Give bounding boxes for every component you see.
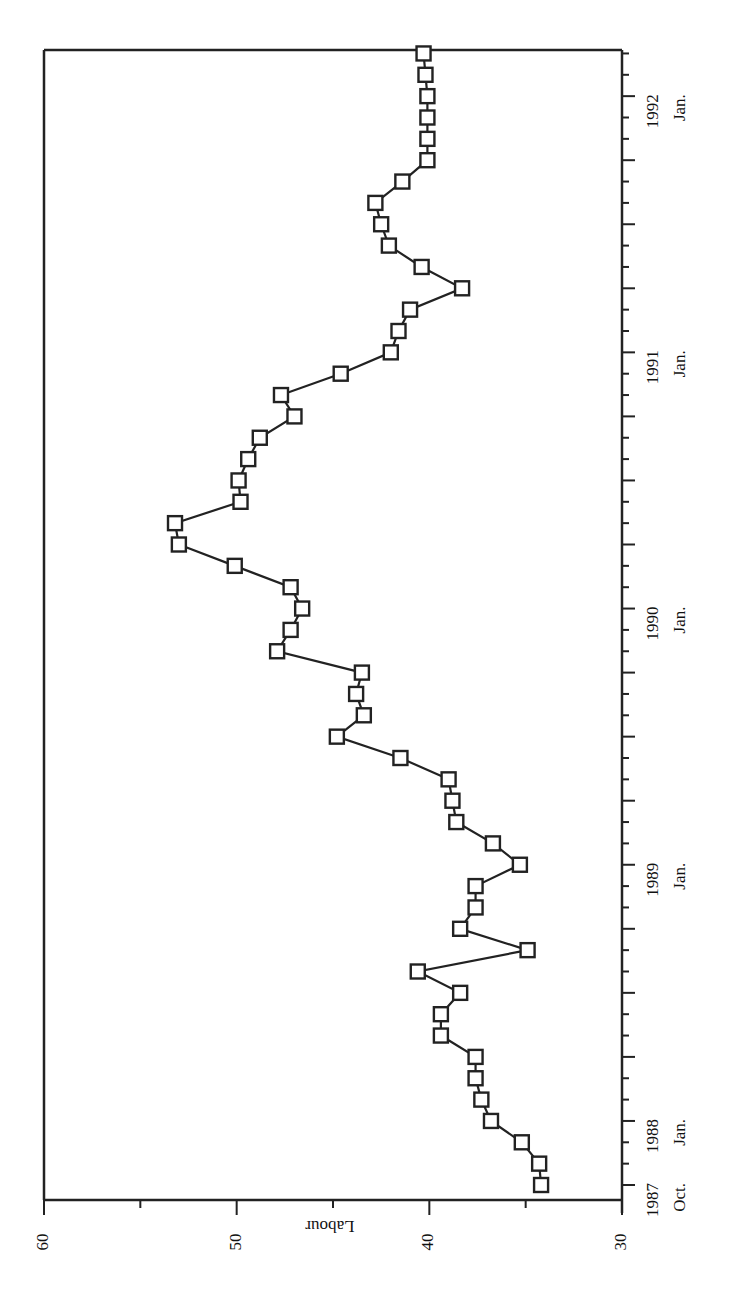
value-tick-label: 40 [418,1234,437,1251]
data-point-marker [513,858,527,872]
time-tick-label: 1990Jan. [643,607,689,641]
data-point-marker [330,730,344,744]
labour-series-line [175,53,541,1185]
data-point-marker [232,473,246,487]
data-point-marker [270,644,284,658]
data-point-marker [445,794,459,808]
value-axis-ticks [44,1200,622,1215]
data-point-marker [469,900,483,914]
time-tick-label: 1988Jan. [643,1119,689,1153]
data-point-marker [486,836,500,850]
data-point-marker [334,367,348,381]
time-axis-labels: 1987Oct.1988Jan.1989Jan.1990Jan.1991Jan.… [643,94,689,1217]
time-axis-ticks [622,53,635,1185]
data-point-marker [253,431,267,445]
data-point-marker [469,879,483,893]
data-point-marker [382,239,396,253]
data-point-marker [453,986,467,1000]
time-tick-label: 1992Jan. [643,94,689,128]
data-point-marker [374,217,388,231]
plot-frame [44,50,622,1213]
data-point-marker [420,89,434,103]
svg-text:Jan.: Jan. [670,94,689,121]
svg-text:1989: 1989 [643,863,662,897]
value-tick-label: 60 [33,1234,52,1251]
data-point-marker [355,666,369,680]
data-point-marker [168,516,182,530]
data-point-marker [521,943,535,957]
data-point-marker [287,409,301,423]
value-axis-title: Labour [305,1217,354,1236]
time-tick-label: 1989Jan. [643,863,689,897]
data-point-marker [484,1114,498,1128]
data-point-marker [284,623,298,637]
data-point-marker [418,68,432,82]
data-point-marker [420,132,434,146]
data-point-marker [172,538,186,552]
data-point-marker [442,772,456,786]
data-point-marker [469,1071,483,1085]
data-point-marker [241,452,255,466]
svg-text:Jan.: Jan. [670,863,689,890]
value-tick-label: 30 [611,1234,630,1251]
data-point-marker [534,1178,548,1192]
data-point-marker [453,922,467,936]
data-point-marker [415,260,429,274]
data-point-marker [395,175,409,189]
svg-text:1987: 1987 [643,1183,662,1218]
time-tick-label: 1987Oct. [643,1183,689,1218]
data-point-marker [417,46,431,60]
data-point-marker [228,559,242,573]
data-point-marker [357,708,371,722]
data-point-marker [384,345,398,359]
data-point-marker [434,1007,448,1021]
data-point-marker [411,965,425,979]
labour-series-markers [168,46,548,1192]
data-point-marker [434,1029,448,1043]
svg-text:Jan.: Jan. [670,607,689,634]
svg-text:1992: 1992 [643,94,662,128]
data-point-marker [403,303,417,317]
data-point-marker [295,602,309,616]
labour-line-chart: 30405060 1987Oct.1988Jan.1989Jan.1990Jan… [0,0,735,1304]
data-point-marker [449,815,463,829]
svg-text:1990: 1990 [643,607,662,641]
data-point-marker [284,580,298,594]
data-point-marker [420,153,434,167]
data-point-marker [515,1135,529,1149]
data-point-marker [393,751,407,765]
value-tick-label: 50 [226,1234,245,1251]
data-point-marker [455,281,469,295]
svg-text:1991: 1991 [643,350,662,384]
data-point-marker [234,495,248,509]
data-point-marker [474,1093,488,1107]
time-tick-label: 1991Jan. [643,350,689,384]
data-point-marker [349,687,363,701]
data-point-marker [274,388,288,402]
svg-text:Oct.: Oct. [670,1183,689,1212]
data-point-marker [532,1157,546,1171]
data-point-marker [368,196,382,210]
data-point-marker [469,1050,483,1064]
svg-text:Jan.: Jan. [670,1119,689,1146]
data-point-marker [420,111,434,125]
svg-text:Jan.: Jan. [670,350,689,377]
svg-text:1988: 1988 [643,1119,662,1153]
data-point-marker [392,324,406,338]
